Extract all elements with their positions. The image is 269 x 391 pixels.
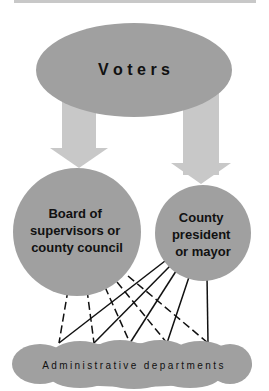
county-government-diagram: V o t e r s Board of supervisors or coun… <box>0 0 269 391</box>
administrative-departments-node: Administrative departments <box>12 340 252 389</box>
admin-label: Administrative departments <box>42 360 226 371</box>
president-node: County president or mayor <box>155 185 251 281</box>
board-label-line-2: supervisors or <box>30 223 120 238</box>
voters-node: V o t e r s <box>36 23 232 117</box>
board-label-line-1: Board of <box>48 206 102 221</box>
president-label-line-1: County <box>179 210 225 225</box>
voters-label: V o t e r s <box>98 61 170 78</box>
board-label-line-3: county council <box>31 240 123 255</box>
board-node: Board of supervisors or county council <box>13 168 141 296</box>
president-label-line-3: or mayor <box>175 244 231 259</box>
svg-text:County president o: County president or mayor <box>172 210 234 259</box>
president-label-line-2: president <box>172 227 231 242</box>
